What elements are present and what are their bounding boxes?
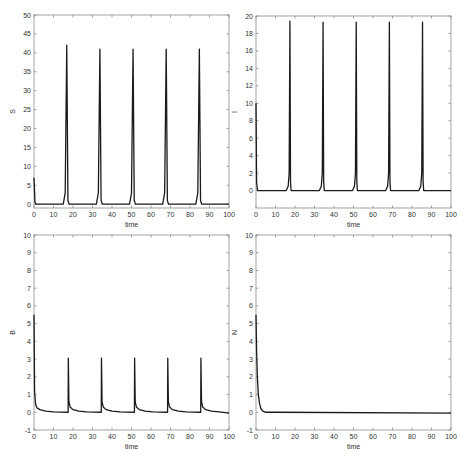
x-tick-label: 20 — [291, 211, 299, 218]
y-tick-label: -1 — [247, 427, 253, 434]
x-tick-label: 20 — [69, 433, 77, 440]
y-tick-label: 8 — [249, 267, 253, 274]
y-axis-label: S — [9, 109, 16, 114]
x-axis-label: time — [125, 443, 138, 450]
y-tick-label: 1 — [249, 391, 253, 398]
x-axis-label: time — [347, 443, 360, 450]
subplot-n: 0102030405060708090100-1012345678910time… — [231, 232, 457, 451]
x-tick-label: 0 — [254, 211, 258, 218]
x-tick-label: 90 — [428, 211, 436, 218]
y-tick-label: 0 — [249, 187, 253, 194]
x-tick-label: 50 — [128, 433, 136, 440]
x-tick-label: 70 — [167, 433, 175, 440]
x-tick-label: 100 — [223, 433, 235, 440]
y-tick-label: 10 — [23, 163, 31, 170]
x-tick-label: 60 — [369, 433, 377, 440]
x-tick-label: 20 — [291, 433, 299, 440]
y-tick-label: 6 — [249, 135, 253, 142]
x-tick-label: 80 — [186, 211, 194, 218]
x-tick-label: 100 — [445, 211, 457, 218]
x-tick-label: 10 — [50, 211, 58, 218]
x-tick-label: 90 — [206, 433, 214, 440]
y-tick-label: 40 — [23, 49, 31, 56]
x-tick-label: 30 — [311, 433, 319, 440]
y-tick-label: 3 — [249, 356, 253, 363]
y-tick-label: 8 — [27, 267, 31, 274]
x-tick-label: 100 — [223, 211, 235, 218]
x-tick-label: 30 — [311, 211, 319, 218]
x-axis-label: time — [347, 221, 360, 228]
x-tick-label: 50 — [350, 211, 358, 218]
y-tick-label: 18 — [245, 30, 253, 37]
y-tick-label: 8 — [249, 117, 253, 124]
x-tick-label: 100 — [445, 433, 457, 440]
x-tick-label: 70 — [389, 211, 397, 218]
axes-box — [256, 235, 451, 430]
y-tick-label: 2 — [249, 170, 253, 177]
x-tick-label: 0 — [32, 211, 36, 218]
x-axis-label: time — [125, 221, 138, 228]
y-tick-label: 30 — [23, 87, 31, 94]
x-tick-label: 70 — [167, 211, 175, 218]
y-tick-label: 1 — [27, 391, 31, 398]
x-tick-label: 10 — [50, 433, 58, 440]
y-tick-label: 3 — [27, 356, 31, 363]
x-tick-label: 50 — [128, 211, 136, 218]
x-tick-label: 60 — [147, 433, 155, 440]
y-tick-label: 15 — [23, 144, 31, 151]
y-tick-label: 5 — [249, 320, 253, 327]
x-tick-label: 10 — [272, 433, 280, 440]
x-tick-label: 80 — [408, 211, 416, 218]
y-axis-label: I — [231, 111, 238, 113]
y-tick-label: 10 — [245, 100, 253, 107]
x-tick-label: 40 — [108, 433, 116, 440]
y-axis-label: N — [231, 330, 238, 335]
y-tick-label: 4 — [249, 338, 253, 345]
y-tick-label: 16 — [245, 47, 253, 54]
y-tick-label: 2 — [27, 373, 31, 380]
y-tick-label: 14 — [245, 65, 253, 72]
subplot-i: 010203040506070809010002468101214161820t… — [231, 13, 457, 229]
axes-box — [34, 235, 229, 430]
y-tick-label: 10 — [23, 232, 31, 239]
y-tick-label: 35 — [23, 68, 31, 75]
x-tick-label: 20 — [69, 211, 77, 218]
x-tick-label: 50 — [350, 433, 358, 440]
x-tick-label: 40 — [330, 211, 338, 218]
y-tick-label: 9 — [249, 249, 253, 256]
y-tick-label: 0 — [27, 409, 31, 416]
y-tick-label: 5 — [27, 320, 31, 327]
y-tick-label: 20 — [23, 125, 31, 132]
y-tick-label: 45 — [23, 30, 31, 37]
y-tick-label: 12 — [245, 82, 253, 89]
x-tick-label: 60 — [147, 211, 155, 218]
x-tick-label: 70 — [389, 433, 397, 440]
y-tick-label: 25 — [23, 106, 31, 113]
y-tick-label: 50 — [23, 12, 31, 19]
x-tick-label: 90 — [206, 211, 214, 218]
y-tick-label: 0 — [27, 201, 31, 208]
y-tick-label: 20 — [245, 13, 253, 20]
figure-canvas: 0102030405060708090100051015202530354045… — [0, 0, 471, 461]
x-tick-label: 30 — [89, 211, 97, 218]
x-tick-label: 90 — [428, 433, 436, 440]
y-tick-label: 10 — [245, 232, 253, 239]
x-tick-label: 0 — [32, 433, 36, 440]
x-tick-label: 60 — [369, 211, 377, 218]
x-tick-label: 0 — [254, 433, 258, 440]
y-tick-label: 5 — [27, 182, 31, 189]
y-tick-label: 0 — [249, 409, 253, 416]
y-tick-label: 2 — [249, 373, 253, 380]
y-tick-label: 4 — [27, 338, 31, 345]
y-tick-label: 7 — [27, 285, 31, 292]
x-tick-label: 80 — [408, 433, 416, 440]
figure: 0102030405060708090100051015202530354045… — [0, 0, 471, 461]
subplot-b: 0102030405060708090100-1012345678910time… — [9, 232, 235, 451]
x-tick-label: 10 — [272, 211, 280, 218]
y-tick-label: -1 — [25, 427, 31, 434]
y-tick-label: 7 — [249, 285, 253, 292]
y-tick-label: 4 — [249, 152, 253, 159]
y-axis-label: B — [9, 330, 16, 335]
y-tick-label: 9 — [27, 249, 31, 256]
x-tick-label: 40 — [330, 433, 338, 440]
